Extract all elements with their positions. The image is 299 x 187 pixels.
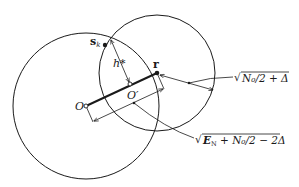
svg-text:√: √ (195, 133, 202, 145)
line-O-to-r (86, 73, 157, 106)
label-h-star: h* (113, 57, 126, 70)
svg-text:EN + N₀/2 − 2Δ: EN + N₀/2 − 2Δ (202, 134, 286, 148)
extension-line-O (86, 106, 93, 122)
geometry-diagram: O O′ r sk h* √ N₀/2 + Δ √ EN + N₀/2 − 2Δ (0, 0, 299, 187)
point-O-prime-marker (128, 82, 132, 86)
leader-lower-formula (134, 103, 194, 138)
svg-text:√: √ (234, 71, 241, 83)
formula-distance-O-r: √ EN + N₀/2 − 2Δ (195, 133, 286, 148)
formula-small-radius: √ N₀/2 + Δ (234, 71, 289, 84)
point-O-marker (84, 104, 88, 108)
svg-text:N₀/2 + Δ: N₀/2 + Δ (241, 72, 289, 84)
label-s-k: sk (90, 35, 100, 49)
label-O: O (75, 100, 84, 113)
leader-upper-formula (189, 77, 233, 83)
point-r-marker (155, 71, 160, 76)
radius-arrow-small-circle (160, 75, 213, 90)
point-s-k-marker (103, 43, 107, 47)
label-r: r (153, 58, 159, 71)
label-O-prime: O′ (127, 89, 139, 102)
